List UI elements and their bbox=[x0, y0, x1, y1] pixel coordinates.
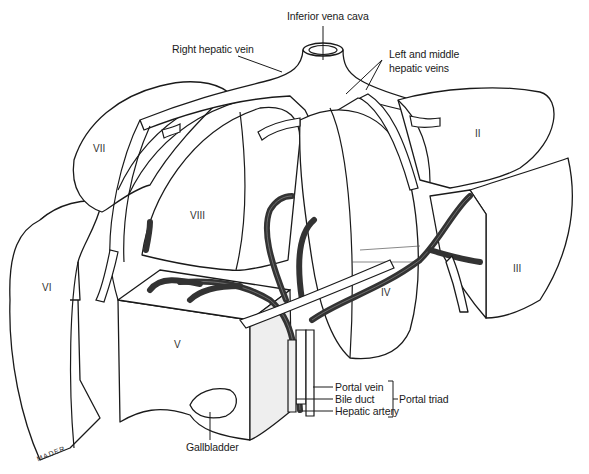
liver-segment-diagram: Inferior vena cava Right hepatic vein Le… bbox=[0, 0, 589, 474]
portal-vein-label: Portal vein bbox=[335, 381, 384, 393]
left-middle-hepatic-veins-label-line2: hepatic veins bbox=[389, 62, 449, 74]
left-middle-veins-leader-2 bbox=[366, 60, 382, 90]
segment-vii-label: VII bbox=[93, 143, 105, 154]
segment-iv-label: IV bbox=[381, 287, 390, 298]
segment-vi-label: VI bbox=[42, 282, 51, 293]
portal-triad-label: Portal triad bbox=[399, 393, 449, 405]
bile-duct-label: Bile duct bbox=[335, 393, 374, 405]
liver-illustration bbox=[0, 0, 589, 474]
segment-v-label: V bbox=[174, 339, 181, 350]
segment-ii-label: II bbox=[475, 128, 481, 139]
segment-v-shape bbox=[118, 300, 250, 440]
ivc-label: Inferior vena cava bbox=[287, 10, 369, 22]
gallbladder-label: Gallbladder bbox=[186, 441, 239, 453]
segment-viii-label: VIII bbox=[190, 210, 205, 221]
portal-triad-trunk bbox=[296, 330, 306, 404]
right-hepatic-vein-label: Right hepatic vein bbox=[172, 43, 254, 55]
segment-iii-label: III bbox=[513, 263, 521, 274]
left-middle-hepatic-veins-label-line1: Left and middle bbox=[389, 48, 459, 60]
hepatic-artery-label: Hepatic artery bbox=[335, 405, 399, 417]
right-hepatic-vein-leader bbox=[238, 56, 282, 72]
